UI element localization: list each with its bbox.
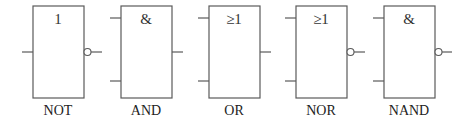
nand-gate-symbol: & xyxy=(403,11,415,27)
gate-and: & AND xyxy=(110,6,183,118)
logic-gates-diagram: 1 NOT & AND ≥1 OR ≥1 NOR & xyxy=(0,0,473,124)
not-inversion-bubble-icon xyxy=(84,49,91,56)
or-gate-symbol: ≥1 xyxy=(226,11,242,27)
nand-gate-label: NAND xyxy=(389,103,429,118)
nand-inversion-bubble-icon xyxy=(435,49,442,56)
gate-nand: & NAND xyxy=(373,6,452,118)
nor-gate-label: NOR xyxy=(306,103,336,118)
not-gate-label: NOT xyxy=(44,103,73,118)
gate-or: ≥1 OR xyxy=(198,6,271,118)
and-gate-symbol: & xyxy=(140,11,152,27)
gate-not: 1 NOT xyxy=(22,6,102,118)
nor-gate-symbol: ≥1 xyxy=(313,11,329,27)
and-gate-label: AND xyxy=(131,103,161,118)
or-gate-label: OR xyxy=(224,103,244,118)
not-gate-symbol: 1 xyxy=(54,11,62,27)
gate-nor: ≥1 NOR xyxy=(285,6,365,118)
nor-inversion-bubble-icon xyxy=(347,49,354,56)
